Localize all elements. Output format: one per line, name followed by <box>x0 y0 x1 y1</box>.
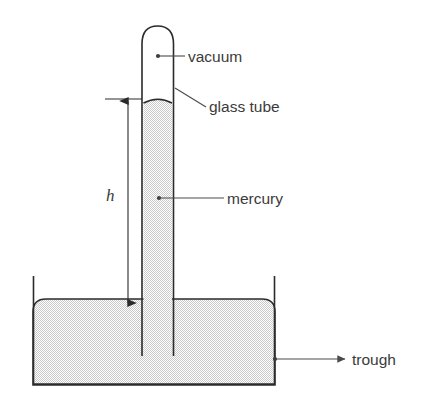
height-dimension-group: h <box>105 99 142 303</box>
trough-label: trough <box>352 351 396 368</box>
barometer-drawing: h vacuum glass tube mercury trough <box>0 0 436 411</box>
barometer-figure: h vacuum glass tube mercury trough <box>0 0 436 411</box>
tube-mercury-fill <box>144 100 173 358</box>
glass-tube-group <box>142 26 174 357</box>
height-label: h <box>106 186 115 205</box>
mercury-label: mercury <box>227 190 283 207</box>
glass-tube-leader <box>175 88 206 107</box>
glass-tube-label: glass tube <box>209 98 280 115</box>
vacuum-label: vacuum <box>188 48 242 65</box>
trough-callout: trough <box>273 351 396 368</box>
vacuum-callout: vacuum <box>156 48 242 65</box>
mercury-callout: mercury <box>157 190 283 207</box>
glass-tube-callout: glass tube <box>175 88 280 115</box>
